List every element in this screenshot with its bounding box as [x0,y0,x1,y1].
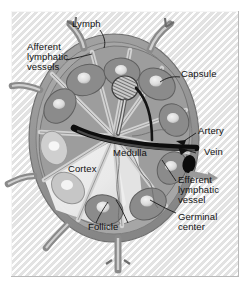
label-cortex: Cortex [68,164,97,175]
label-capsule: Capsule [181,69,217,80]
leader-capsule [160,77,180,82]
leader-artery [184,133,196,141]
label-vein: Vein [204,147,223,158]
artery-arrowhead [176,140,186,146]
label-follicle: Follicle [88,222,118,233]
leader-follicle-2 [96,202,108,223]
leader-afferent [66,54,92,60]
pointer-arrowheads [176,140,188,155]
label-artery: Artery [198,126,224,137]
leader-lymph [100,30,105,48]
leader-germinal [150,200,176,213]
leader-follicle [116,200,128,223]
figure-root: Lymph Afferent lymphatic vessels Capsule… [0,0,248,288]
label-medulla: Medulla [113,148,147,159]
leader-efferent [162,160,176,181]
leader-vein [186,150,196,153]
label-lymph: Lymph [72,19,101,30]
vein-arrowhead [178,147,188,155]
